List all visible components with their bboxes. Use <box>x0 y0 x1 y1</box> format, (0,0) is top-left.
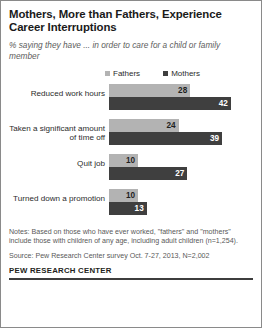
legend-label-mothers: Mothers <box>171 69 200 78</box>
bar-row-fathers: 24 <box>109 119 253 132</box>
bar-row-mothers: 42 <box>109 97 253 110</box>
bar-mothers: 39 <box>109 132 222 145</box>
legend-item-fathers: Fathers <box>105 69 140 78</box>
chart-figure: Mothers, More than Fathers, Experience C… <box>0 0 262 328</box>
bar-fathers: 24 <box>109 119 179 132</box>
chart-legend: Fathers Mothers <box>9 68 253 80</box>
bar-group: Taken a significant amount of time off 2… <box>9 119 253 149</box>
bar-row-mothers: 39 <box>109 132 253 145</box>
bar-mothers: 13 <box>109 202 147 215</box>
legend-item-mothers: Mothers <box>163 69 200 78</box>
chart-title: Mothers, More than Fathers, Experience C… <box>9 8 253 35</box>
bar-fathers: 10 <box>109 189 138 202</box>
bar-value-fathers: 10 <box>126 156 135 165</box>
bar-pair: 10 27 <box>109 154 253 180</box>
chart-plot-area: Reduced work hours 28 42 Taken a signifi… <box>9 84 253 224</box>
bar-group: Turned down a promotion 10 13 <box>9 189 253 219</box>
category-label: Turned down a promotion <box>9 189 109 204</box>
bar-value-mothers: 13 <box>135 204 144 213</box>
bar-value-fathers: 28 <box>178 86 187 95</box>
category-label: Taken a significant amount of time off <box>9 119 109 143</box>
bar-group: Quit job 10 27 <box>9 154 253 184</box>
bar-value-fathers: 10 <box>126 191 135 200</box>
legend-label-fathers: Fathers <box>113 69 140 78</box>
bar-value-fathers: 24 <box>166 121 175 130</box>
legend-swatch-mothers <box>163 71 168 76</box>
chart-notes: Notes: Based on those who have ever work… <box>9 228 253 246</box>
bar-value-mothers: 27 <box>175 169 184 178</box>
bar-pair: 10 13 <box>109 189 253 215</box>
bar-mothers: 42 <box>109 97 231 110</box>
category-label: Quit job <box>9 154 109 169</box>
footer-rule <box>9 278 253 280</box>
category-label: Reduced work hours <box>9 84 109 99</box>
chart-source: Source: Pew Research Center survey Oct. … <box>9 252 253 261</box>
bar-row-fathers: 28 <box>109 84 253 97</box>
bar-mothers: 27 <box>109 167 187 180</box>
bar-fathers: 10 <box>109 154 138 167</box>
bar-value-mothers: 42 <box>219 99 228 108</box>
bar-value-mothers: 39 <box>210 134 219 143</box>
bar-pair: 24 39 <box>109 119 253 145</box>
bar-fathers: 28 <box>109 84 190 97</box>
bar-row-mothers: 13 <box>109 202 253 215</box>
legend-swatch-fathers <box>105 71 110 76</box>
bar-row-fathers: 10 <box>109 154 253 167</box>
bar-row-fathers: 10 <box>109 189 253 202</box>
chart-subtitle: % saying they have ... in order to care … <box>9 40 253 62</box>
bar-group: Reduced work hours 28 42 <box>9 84 253 114</box>
bar-pair: 28 42 <box>109 84 253 110</box>
brand-label: PEW RESEARCH CENTER <box>9 266 253 275</box>
bar-row-mothers: 27 <box>109 167 253 180</box>
